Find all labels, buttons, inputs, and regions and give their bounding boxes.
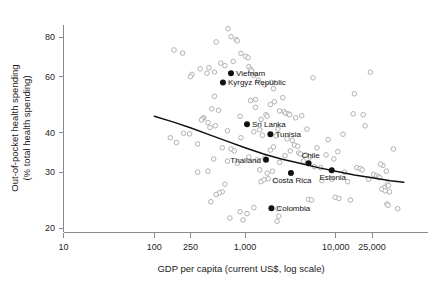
data-point <box>213 123 218 128</box>
data-point <box>305 127 310 132</box>
data-point <box>348 198 353 203</box>
data-point <box>368 70 373 75</box>
data-point <box>195 170 200 175</box>
data-point <box>174 140 179 145</box>
data-point <box>311 75 316 80</box>
data-point <box>241 218 246 223</box>
data-point <box>220 145 225 150</box>
y-axis-title: Out-of-pocket health spending (% total h… <box>9 64 32 191</box>
data-point <box>384 169 389 174</box>
data-point <box>335 149 340 154</box>
data-point <box>391 147 396 152</box>
data-point <box>315 145 320 150</box>
data-point <box>195 142 200 147</box>
data-point <box>211 157 216 162</box>
data-point <box>245 211 250 216</box>
data-point <box>360 168 365 173</box>
data-point <box>209 199 214 204</box>
data-point <box>293 116 298 121</box>
data-point <box>226 26 231 31</box>
y-tick-label: 30 <box>45 167 55 177</box>
data-point <box>299 113 304 118</box>
data-point <box>216 108 221 113</box>
data-point <box>270 169 275 174</box>
data-point <box>260 133 265 138</box>
data-point <box>225 159 230 164</box>
data-point <box>332 157 337 162</box>
data-point <box>253 105 258 110</box>
data-point <box>351 112 356 117</box>
data-point-label: Sri Lanka <box>252 120 286 129</box>
data-point <box>386 203 391 208</box>
data-point <box>266 176 271 181</box>
data-point <box>206 169 211 174</box>
data-point <box>341 132 346 137</box>
data-point <box>324 153 329 158</box>
data-point <box>287 112 292 117</box>
data-point <box>235 39 240 44</box>
data-point <box>239 51 244 56</box>
data-point <box>208 125 213 130</box>
labeled-data-point <box>244 121 250 127</box>
data-point <box>212 94 217 99</box>
data-point <box>168 135 173 140</box>
data-point <box>198 67 203 72</box>
data-point-label: Estonia <box>319 173 346 182</box>
x-tick-label: 1,000 <box>234 242 257 252</box>
data-point <box>172 48 177 53</box>
data-point <box>252 130 257 135</box>
data-point <box>277 160 282 165</box>
data-point <box>363 123 368 128</box>
data-point <box>283 153 288 158</box>
scatter-chart: 2030406080 101002501,00010,00025,000 Vie… <box>0 0 434 284</box>
data-point <box>309 198 314 203</box>
x-tick-label: 25,000 <box>358 242 386 252</box>
data-point <box>386 183 391 188</box>
data-point <box>223 182 228 187</box>
data-point <box>345 179 350 184</box>
labeled-data-point <box>268 205 274 211</box>
x-tick-label: 100 <box>147 242 162 252</box>
labeled-data-point <box>306 160 312 166</box>
data-point <box>326 137 331 142</box>
data-point <box>352 91 357 96</box>
data-point <box>395 206 400 211</box>
y-axis-title-line2: (% total health spending) <box>21 75 32 180</box>
data-point <box>248 98 253 103</box>
data-point <box>210 107 215 112</box>
data-point <box>361 112 366 117</box>
data-point-label: Thailand <box>230 156 261 165</box>
data-point <box>239 135 244 140</box>
data-point <box>214 40 219 45</box>
y-tick-label: 40 <box>45 128 55 138</box>
x-tick-label: 250 <box>183 242 198 252</box>
y-axis-title-line1: Out-of-pocket health spending <box>9 64 20 191</box>
data-point <box>268 148 273 153</box>
data-point <box>225 128 230 133</box>
data-point <box>378 162 383 167</box>
labeled-data-point <box>220 80 226 86</box>
data-point <box>181 131 186 136</box>
data-point <box>206 120 211 125</box>
chart-canvas: 2030406080 101002501,00010,00025,000 Vie… <box>0 0 434 284</box>
labeled-data-point <box>263 157 269 163</box>
y-tick-label: 80 <box>45 32 55 42</box>
data-point <box>207 65 212 70</box>
data-point <box>295 144 300 149</box>
data-point <box>238 209 243 214</box>
data-point <box>199 118 204 123</box>
data-point <box>288 149 293 154</box>
data-point <box>246 55 251 60</box>
data-point <box>229 34 234 39</box>
data-point <box>238 114 243 119</box>
data-point <box>214 192 219 197</box>
data-point <box>228 216 233 221</box>
x-tick-label: 10 <box>58 242 68 252</box>
data-point <box>265 171 270 176</box>
data-point <box>180 51 185 56</box>
data-point <box>253 97 258 102</box>
x-axis-title: GDP per capita (current US$, log scale) <box>157 263 324 274</box>
data-point <box>277 109 282 114</box>
data-point <box>265 114 270 119</box>
x-tick-label: 10,000 <box>322 242 350 252</box>
